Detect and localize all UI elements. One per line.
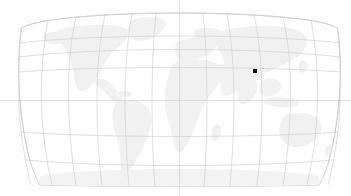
- land-new-zealand: [325, 145, 333, 157]
- location-marker[interactable]: [253, 69, 257, 73]
- world-map-canvas[interactable]: [0, 0, 351, 196]
- world-map-figure: [0, 0, 351, 196]
- map-markers[interactable]: [253, 69, 257, 73]
